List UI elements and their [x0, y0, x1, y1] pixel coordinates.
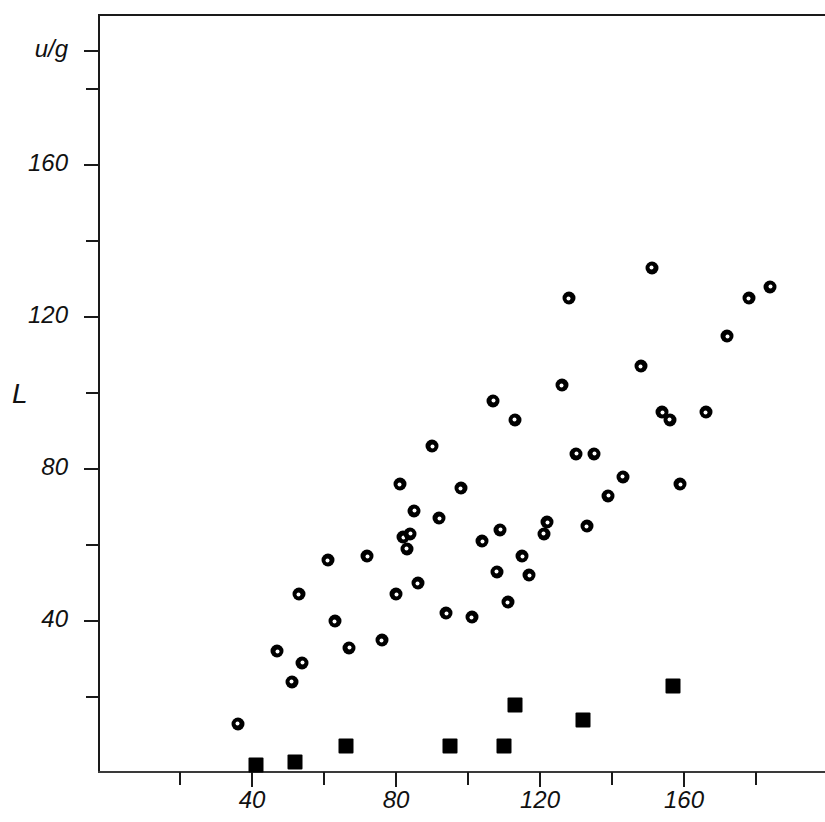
data-point-circle: [426, 440, 439, 453]
y-axis-tick: [84, 620, 99, 622]
data-point-circle: [390, 588, 403, 601]
data-point-square: [443, 739, 458, 754]
data-point-circle: [541, 516, 554, 529]
x-axis-tick: [611, 772, 613, 785]
data-point-square: [666, 678, 681, 693]
data-point-circle: [555, 379, 568, 392]
x-axis-tick-label: 160: [664, 786, 704, 814]
data-point-circle: [285, 675, 298, 688]
data-point-circle: [400, 542, 413, 555]
y-axis-title: L: [12, 378, 28, 410]
x-axis-tick-label: 40: [239, 786, 266, 814]
data-point-circle: [523, 569, 536, 582]
y-axis-tick: [84, 468, 99, 470]
scatter-plot-figure: L 4080120160u/g 4080120160u/g: [0, 0, 825, 822]
data-point-circle: [411, 577, 424, 590]
y-axis-tick: [84, 164, 99, 166]
data-point-circle: [494, 523, 507, 536]
data-point-circle: [508, 413, 521, 426]
data-point-circle: [602, 489, 615, 502]
x-axis-tick-label: 80: [383, 786, 410, 814]
data-point-circle: [231, 717, 244, 730]
data-point-circle: [501, 596, 514, 609]
data-point-circle: [699, 406, 712, 419]
data-point-circle: [361, 550, 374, 563]
y-axis-tick: [84, 316, 99, 318]
data-point-circle: [674, 478, 687, 491]
data-point-square: [338, 739, 353, 754]
x-axis-tick: [323, 772, 325, 785]
data-point-circle: [634, 360, 647, 373]
data-point-circle: [440, 607, 453, 620]
data-point-circle: [562, 292, 575, 305]
data-point-circle: [476, 535, 489, 548]
data-point-circle: [328, 615, 341, 628]
y-axis-tick-label: 80: [41, 453, 68, 481]
data-point-circle: [454, 482, 467, 495]
data-point-circle: [393, 478, 406, 491]
y-axis-tick-label: 40: [41, 605, 68, 633]
y-axis-tick-label: 160: [28, 149, 68, 177]
data-point-circle: [742, 292, 755, 305]
data-point-circle: [764, 280, 777, 293]
data-point-square: [288, 754, 303, 769]
data-point-square: [248, 758, 263, 773]
data-point-circle: [645, 261, 658, 274]
data-point-square: [497, 739, 512, 754]
data-point-circle: [616, 470, 629, 483]
x-axis-tick: [539, 772, 541, 787]
data-point-circle: [292, 588, 305, 601]
data-point-circle: [580, 520, 593, 533]
data-point-circle: [408, 504, 421, 517]
data-point-circle: [516, 550, 529, 563]
data-point-circle: [271, 645, 284, 658]
y-axis-tick-label: 120: [28, 301, 68, 329]
x-axis-tick-label: 120: [520, 786, 560, 814]
data-point-circle: [375, 634, 388, 647]
data-point-square: [507, 697, 522, 712]
data-point-square: [576, 712, 591, 727]
x-axis-tick: [467, 772, 469, 785]
data-point-circle: [721, 330, 734, 343]
data-point-circle: [321, 554, 334, 567]
data-point-circle: [433, 512, 446, 525]
y-axis-unit-tick: [84, 50, 99, 52]
y-axis-unit-label: u/g: [35, 35, 68, 63]
x-axis-tick: [179, 772, 181, 785]
data-point-circle: [404, 527, 417, 540]
data-point-circle: [570, 447, 583, 460]
plot-area: [98, 14, 825, 772]
x-axis-tick: [395, 772, 397, 787]
data-point-circle: [490, 565, 503, 578]
data-point-circle: [537, 527, 550, 540]
data-point-circle: [296, 656, 309, 669]
data-point-circle: [588, 447, 601, 460]
data-point-circle: [465, 611, 478, 624]
x-axis-tick: [251, 772, 253, 787]
x-axis-tick: [755, 772, 757, 785]
data-point-circle: [663, 413, 676, 426]
data-point-circle: [487, 394, 500, 407]
data-point-circle: [343, 641, 356, 654]
x-axis-tick: [683, 772, 685, 787]
